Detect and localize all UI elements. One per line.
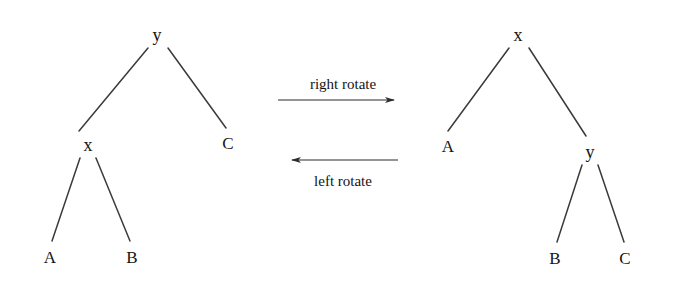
left-rotate-label: left rotate xyxy=(314,174,372,189)
edge-y-to-C-right xyxy=(598,165,624,242)
transform-arrows xyxy=(278,100,398,160)
edge-y-to-x xyxy=(79,48,148,131)
right-tree-node-C: C xyxy=(619,250,630,267)
right-tree-node-B: B xyxy=(549,250,560,267)
tree-rotation-figure: y x C A B x A y B C right rotate left ro… xyxy=(0,0,673,291)
edge-x-to-B xyxy=(96,158,130,241)
edge-x-to-A xyxy=(52,158,80,241)
left-tree-node-A: A xyxy=(44,249,56,266)
edge-x-to-y-right xyxy=(529,48,586,136)
right-rotate-label: right rotate xyxy=(310,77,376,92)
left-tree-node-B: B xyxy=(126,249,137,266)
right-tree-node-x: x xyxy=(514,26,523,44)
right-tree-edges xyxy=(448,48,624,242)
edge-x-to-A-right xyxy=(448,48,509,131)
tree-edges-layer xyxy=(0,0,673,291)
edge-y-to-B-right xyxy=(557,165,582,242)
edge-y-to-C xyxy=(168,48,226,128)
left-tree-edges xyxy=(52,48,226,241)
right-tree-node-y: y xyxy=(586,143,595,161)
right-tree-node-A: A xyxy=(442,138,454,155)
left-tree-node-x: x xyxy=(84,136,93,154)
left-tree-node-y: y xyxy=(153,26,162,44)
left-tree-node-C: C xyxy=(222,135,233,152)
